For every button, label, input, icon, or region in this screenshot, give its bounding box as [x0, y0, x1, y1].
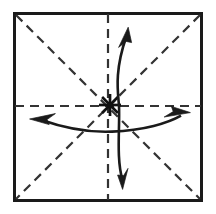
- origami-fold-figure: Origami fold diagram: square sheet with …: [0, 0, 216, 214]
- figure-canvas: Origami fold diagram: square sheet with …: [0, 0, 216, 214]
